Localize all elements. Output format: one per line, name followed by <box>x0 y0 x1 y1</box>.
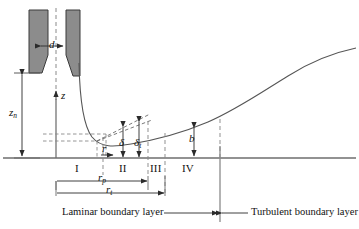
label-nozzle-height-z-n: zn <box>9 107 17 119</box>
free-surface-profile-curve <box>79 48 356 146</box>
label-r-p: rp <box>98 172 106 184</box>
boundary-layer-lines <box>97 114 152 141</box>
caption-laminar-boundary-layer: Laminar boundary layer <box>62 207 163 218</box>
label-radial-r: r <box>102 143 106 154</box>
caption-turbulent-boundary-layer: Turbulent boundary layer <box>251 207 358 218</box>
dimension-z-n <box>14 73 40 158</box>
label-z-n-sub: n <box>13 111 17 120</box>
label-velocity-boundary-layer-delta: δ <box>119 137 124 148</box>
region-label-2: II <box>119 163 127 174</box>
label-thermal-boundary-layer-delta-t: δt <box>134 137 141 149</box>
label-jet-width-b: b <box>189 133 195 144</box>
velocity-boundary-layer-line <box>97 120 152 141</box>
diagram-canvas <box>0 0 359 229</box>
label-r-t-sub: t <box>110 188 112 197</box>
region-label-3: III <box>150 163 162 174</box>
nozzle-left-block <box>29 10 48 73</box>
nozzle-right-block <box>66 10 80 76</box>
region-label-1: I <box>75 163 79 174</box>
label-r-t: rt <box>106 184 112 196</box>
label-nozzle-gap-d: d <box>49 39 55 50</box>
region-label-4: IV <box>182 163 194 174</box>
label-delta-t-sub: t <box>139 141 141 150</box>
label-axis-z: z <box>61 90 65 101</box>
stagnation-dashed-box <box>43 134 106 158</box>
figure-container: d z zn r δ δt b rp rt I II III IV Lamina… <box>0 0 359 229</box>
